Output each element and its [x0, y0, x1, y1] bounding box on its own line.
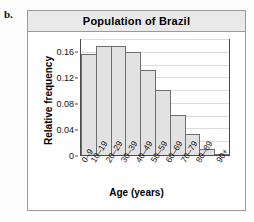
chart-title: Population of Brazil: [83, 15, 190, 27]
y-axis-ticks: 00.040.080.120.16: [28, 39, 78, 156]
y-tick-label: 0.04: [56, 125, 74, 135]
bar-series: [81, 40, 229, 155]
y-tick-label: 0.12: [56, 73, 74, 83]
figure-container: b. Population of Brazil Relative frequen…: [0, 0, 254, 222]
y-tick-mark: [75, 130, 78, 131]
y-tick-mark: [75, 52, 78, 53]
y-tick-mark: [75, 156, 78, 157]
y-tick-label: 0: [69, 151, 74, 161]
y-tick-label: 0.16: [56, 47, 74, 57]
bar: [111, 46, 127, 155]
y-tick-mark: [75, 104, 78, 105]
y-tick-label: 0.08: [56, 99, 74, 109]
x-axis-title: Age (years): [28, 187, 245, 198]
chart-title-bar: Population of Brazil: [28, 11, 245, 32]
bar: [96, 46, 112, 155]
bar: [81, 54, 97, 155]
chart-panel: Population of Brazil Relative frequency …: [27, 10, 246, 211]
plot-area: [80, 39, 230, 156]
y-tick-mark: [75, 78, 78, 79]
part-label: b.: [4, 8, 13, 20]
